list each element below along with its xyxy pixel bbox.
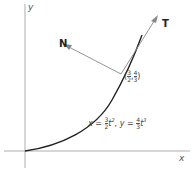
tangent-vector xyxy=(121,18,156,74)
parametric-curve xyxy=(25,35,142,151)
curve-equation: x = 32t2, y = 43t3 xyxy=(88,117,146,130)
y-axis-label: y xyxy=(28,2,33,12)
normal-vector xyxy=(67,46,121,74)
normal-label: N xyxy=(59,38,67,49)
point-label: (32,43) xyxy=(124,70,140,83)
tangent-arrowhead-icon xyxy=(151,15,158,23)
x-axis-label: x xyxy=(179,153,184,163)
tangent-label: T xyxy=(162,18,169,29)
